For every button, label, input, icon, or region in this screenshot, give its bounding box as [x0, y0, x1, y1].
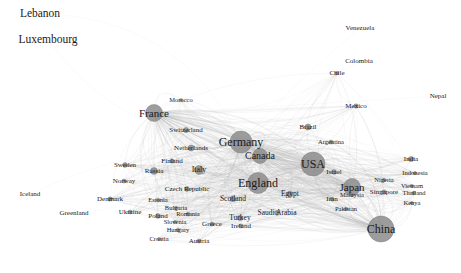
graph-node[interactable]: [188, 145, 194, 151]
graph-node[interactable]: [122, 179, 126, 183]
graph-node[interactable]: [368, 216, 394, 242]
graph-node[interactable]: [350, 193, 354, 197]
graph-node[interactable]: [253, 149, 268, 164]
graph-node[interactable]: [410, 201, 413, 204]
graph-node[interactable]: [210, 222, 214, 226]
graph-node[interactable]: [287, 191, 293, 197]
graph-node[interactable]: [382, 178, 386, 182]
graph-node[interactable]: [330, 197, 334, 201]
graph-node[interactable]: [230, 196, 236, 202]
graph-node[interactable]: [170, 159, 174, 163]
graph-node[interactable]: [230, 131, 252, 153]
graph-node[interactable]: [354, 104, 358, 108]
node-layer: [0, 0, 461, 273]
graph-node[interactable]: [128, 210, 132, 214]
graph-node[interactable]: [335, 71, 339, 75]
graph-node[interactable]: [186, 212, 190, 216]
graph-node[interactable]: [123, 163, 128, 168]
graph-node[interactable]: [151, 168, 158, 175]
graph-node[interactable]: [179, 98, 182, 101]
graph-node[interactable]: [248, 173, 269, 194]
graph-node[interactable]: [185, 187, 190, 192]
graph-node[interactable]: [197, 239, 201, 243]
network-graph-canvas: LebanonLuxembourgVenezuelaColombiaChileN…: [0, 0, 461, 273]
graph-node[interactable]: [305, 124, 311, 130]
graph-node[interactable]: [275, 211, 280, 216]
graph-node[interactable]: [344, 179, 361, 196]
graph-node[interactable]: [174, 206, 178, 210]
graph-node[interactable]: [146, 105, 163, 122]
graph-node[interactable]: [173, 220, 176, 223]
graph-node[interactable]: [237, 215, 242, 220]
graph-node[interactable]: [412, 191, 416, 195]
graph-node[interactable]: [413, 171, 416, 174]
graph-node[interactable]: [195, 166, 204, 175]
graph-node[interactable]: [157, 237, 160, 240]
graph-node[interactable]: [408, 156, 413, 161]
graph-node[interactable]: [156, 198, 160, 202]
graph-node[interactable]: [108, 197, 112, 201]
graph-node[interactable]: [156, 214, 161, 219]
graph-node[interactable]: [239, 224, 243, 228]
graph-node[interactable]: [332, 170, 337, 175]
graph-node[interactable]: [176, 228, 180, 232]
graph-node[interactable]: [410, 184, 413, 187]
graph-node[interactable]: [329, 140, 333, 144]
graph-node[interactable]: [183, 127, 188, 132]
graph-node[interactable]: [344, 207, 348, 211]
graph-node[interactable]: [301, 152, 325, 176]
graph-node[interactable]: [382, 190, 386, 194]
